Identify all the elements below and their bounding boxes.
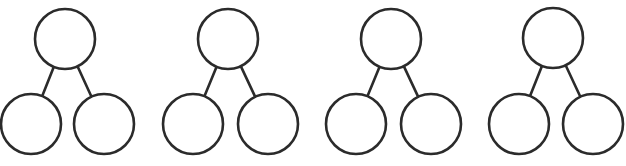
- number-bond-1: [1, 9, 134, 154]
- number-bond-2: [163, 9, 298, 154]
- connector-line-right: [78, 66, 92, 96]
- connector-line-right: [566, 65, 581, 97]
- whole-circle: [523, 8, 583, 68]
- part-circle-left: [326, 94, 386, 154]
- whole-circle: [361, 9, 421, 69]
- part-circle-right: [238, 94, 298, 154]
- number-bond-3: [326, 9, 461, 154]
- connector-line-left: [530, 66, 542, 96]
- connector-line-left: [204, 67, 216, 97]
- part-circle-left: [163, 94, 223, 154]
- part-circle-left: [489, 94, 549, 154]
- connector-line-left: [42, 67, 54, 96]
- part-circle-right: [563, 94, 623, 154]
- whole-circle: [35, 9, 95, 69]
- whole-circle: [198, 9, 258, 69]
- part-circle-right: [401, 94, 461, 154]
- number-bond-4: [489, 8, 623, 154]
- connector-line-right: [241, 66, 255, 97]
- connector-line-right: [404, 66, 418, 97]
- number-bond-diagrams: [0, 0, 626, 166]
- connector-line-left: [367, 67, 379, 97]
- part-circle-left: [1, 94, 61, 154]
- part-circle-right: [74, 94, 134, 154]
